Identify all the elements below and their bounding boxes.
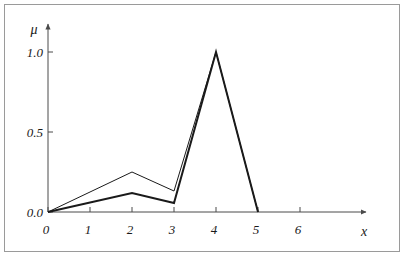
plot-canvas: 0 1 2 3 4 5 6 0.0 0.5 1.0 μ x <box>0 0 411 261</box>
x-tick-label-5: 5 <box>253 222 260 237</box>
series-group <box>48 52 258 212</box>
series-thin-membership-curve <box>48 52 258 212</box>
x-tick-label-6: 6 <box>295 222 302 237</box>
x-tick-label-4: 4 <box>211 222 218 237</box>
series-thick-membership-curve <box>48 52 258 212</box>
x-tick-labels: 0 1 2 3 4 5 6 <box>43 222 302 237</box>
axis-group <box>48 24 366 212</box>
x-tick-label-3: 3 <box>168 222 176 237</box>
y-tick-label-1: 0.5 <box>27 125 44 140</box>
x-tick-marks <box>48 207 300 212</box>
y-tick-label-2: 1.0 <box>27 45 44 60</box>
y-axis-title: μ <box>29 22 37 37</box>
x-tick-label-2: 2 <box>127 222 134 237</box>
x-tick-label-0: 0 <box>43 222 50 237</box>
y-tick-labels: 0.0 0.5 1.0 <box>27 45 44 220</box>
x-tick-label-1: 1 <box>85 222 92 237</box>
y-tick-label-0: 0.0 <box>27 205 44 220</box>
figure-root: 0 1 2 3 4 5 6 0.0 0.5 1.0 μ x <box>0 0 411 261</box>
y-tick-marks <box>48 52 53 212</box>
x-axis-title: x <box>360 224 368 239</box>
